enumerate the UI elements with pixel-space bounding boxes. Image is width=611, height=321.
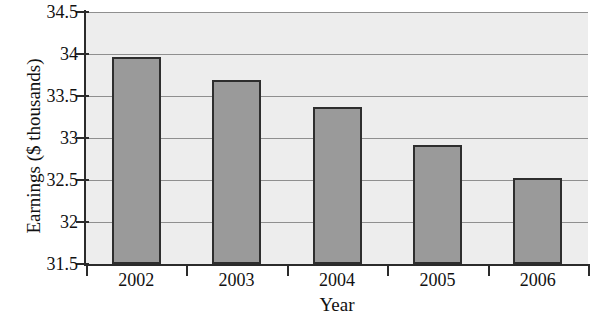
y-tick-label: 31.5: [10, 255, 78, 273]
plot-area: [86, 12, 588, 264]
bar: [513, 178, 562, 264]
gridline: [86, 54, 588, 55]
x-tick-mark: [488, 264, 490, 276]
y-tick-label: 33: [10, 129, 78, 147]
bar: [413, 145, 462, 264]
x-tick-label: 2004: [297, 270, 377, 291]
x-tick-label: 2006: [498, 270, 578, 291]
x-tick-label: 2005: [397, 270, 477, 291]
x-tick-mark: [387, 264, 389, 276]
y-tick-label: 34: [10, 45, 78, 63]
bar-chart-figure: Earnings ($ thousands) 34.53433.53332.53…: [0, 0, 611, 321]
chart-title-cropped: [0, 0, 611, 9]
x-tick-mark: [186, 264, 188, 276]
y-tick-labels: 34.53433.53332.53231.5: [10, 0, 78, 321]
x-tick-mark: [588, 264, 590, 276]
x-tick-label: 2003: [197, 270, 277, 291]
y-tick-label: 32: [10, 213, 78, 231]
bar: [112, 57, 161, 264]
y-tick-label: 33.5: [10, 87, 78, 105]
gridline: [86, 12, 588, 13]
gridline: [86, 96, 588, 97]
x-tick-label: 2002: [96, 270, 176, 291]
y-tick-label: 32.5: [10, 171, 78, 189]
x-axis-title: Year: [86, 294, 588, 316]
bar: [313, 107, 362, 264]
x-tick-mark: [287, 264, 289, 276]
x-tick-mark: [86, 264, 88, 276]
y-tick-label: 34.5: [10, 3, 78, 21]
bar: [212, 80, 261, 264]
x-axis-line: [84, 264, 589, 266]
